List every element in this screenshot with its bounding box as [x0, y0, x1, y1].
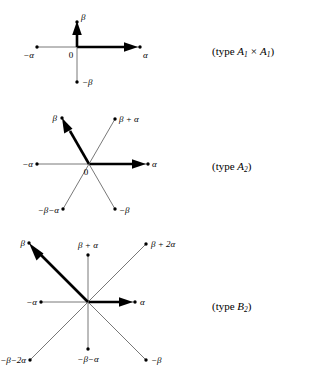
- origin-label-a2: 0: [84, 167, 89, 177]
- type-label-a2: (type A2): [212, 160, 252, 172]
- root-dot-minus-beta-minus-alpha: [61, 207, 64, 210]
- axis-line-minus-beta: [88, 302, 146, 360]
- type-sub-a2: 2: [244, 165, 248, 174]
- axis-line-beta-plus-alpha: [89, 119, 115, 164]
- root-label-beta: β: [80, 12, 86, 22]
- type-label-a1-x-a1: (type A1×A1): [212, 45, 274, 57]
- root-label-alpha: α: [143, 50, 148, 60]
- vector-beta: [41, 255, 88, 302]
- root-label-minus-beta: −β: [82, 77, 93, 87]
- root-label-minus-beta: −β: [119, 205, 130, 215]
- type-sub-b2: 2: [244, 305, 248, 314]
- root-label-beta: β: [52, 113, 58, 123]
- type-sub-a1-first: 1: [244, 50, 248, 59]
- root-label-beta-plus-alpha: β + α: [118, 114, 139, 124]
- arrowhead-alpha: [119, 297, 133, 307]
- axis-line-beta-plus-2alpha: [88, 244, 146, 302]
- type-letter-a1-second: A: [260, 45, 267, 57]
- root-label-minus-alpha: −α: [26, 297, 37, 307]
- root-label-alpha: α: [140, 297, 145, 307]
- type-times-a1: ×: [248, 45, 260, 57]
- root-label-minus-beta: −β: [151, 355, 162, 365]
- root-label-minus-alpha: −α: [22, 159, 33, 169]
- type-label-suffix-b2: ): [248, 300, 252, 312]
- root-dot-beta: [60, 116, 63, 119]
- root-dot-alpha: [133, 300, 136, 303]
- root-dot-beta-plus-alpha: [113, 117, 116, 120]
- arrowhead-alpha: [132, 159, 146, 169]
- root-label-minus-beta-minus-alpha: −β−α: [38, 205, 60, 215]
- root-dot-minus-beta-minus-alpha: [86, 347, 89, 350]
- axis-line-minus-beta: [89, 164, 115, 209]
- origin-label-a1xa1: 0: [69, 50, 74, 60]
- root-dot-beta-plus-2alpha: [144, 242, 147, 245]
- root-label-minus-beta-minus-2alpha: −β−2α: [0, 355, 26, 365]
- root-dot-minus-beta-minus-2alpha: [28, 358, 31, 361]
- root-dot-beta-plus-alpha: [86, 253, 89, 256]
- type-label-prefix-a2: (type: [212, 160, 237, 172]
- diagram-a1-x-a1: α −α β −β 0: [0, 0, 200, 100]
- type-label-suffix-a1: ): [271, 45, 275, 57]
- type-sub-a1-second: 1: [267, 50, 271, 59]
- root-dot-minus-alpha: [35, 162, 38, 165]
- root-dot-minus-beta: [113, 207, 116, 210]
- diagram-a2: α −α β −β β + α −β−α 0: [0, 105, 200, 220]
- root-label-beta-plus-2alpha: β + 2α: [150, 239, 176, 249]
- root-dot-beta: [27, 241, 30, 244]
- root-label-minus-beta-minus-alpha: −β−α: [77, 354, 99, 364]
- arrowhead-alpha: [124, 42, 138, 52]
- type-label-prefix-a1: (type: [212, 45, 237, 57]
- root-dot-minus-alpha: [35, 45, 38, 48]
- diagram-b2: α −α β + α −β−α β −β β + 2α −β−2α: [0, 235, 200, 385]
- root-dot-minus-beta: [144, 358, 147, 361]
- root-label-alpha: α: [152, 159, 157, 169]
- root-label-minus-alpha: −α: [23, 50, 34, 60]
- root-systems-figure: α −α β −β 0 (type A1×A1): [0, 0, 314, 385]
- root-dot-beta: [75, 20, 78, 23]
- root-label-beta-plus-alpha: β + α: [77, 240, 98, 250]
- type-label-prefix-b2: (type: [212, 300, 237, 312]
- type-label-suffix-a2: ): [248, 160, 252, 172]
- root-dot-minus-beta: [75, 80, 78, 83]
- root-dot-alpha: [138, 45, 141, 48]
- arrowhead-beta: [29, 243, 44, 261]
- vector-beta: [70, 131, 89, 164]
- root-label-beta: β: [20, 238, 26, 248]
- root-dot-minus-alpha: [39, 300, 42, 303]
- root-dot-alpha: [146, 162, 149, 165]
- axis-line-minus-beta-minus-2alpha: [30, 302, 88, 360]
- type-label-b2: (type B2): [212, 300, 252, 312]
